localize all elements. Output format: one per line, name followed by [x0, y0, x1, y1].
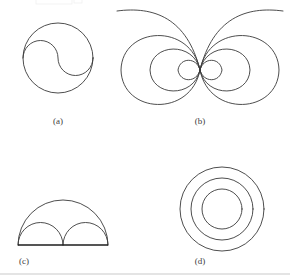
panel-a-caption: (a) [53, 116, 63, 126]
panel-b-right-loop-1 [200, 60, 222, 80]
figure-plate: (a) (b) [0, 0, 290, 280]
panel-d-circle-inner [202, 189, 242, 229]
panel-c-large-semicircle [18, 200, 108, 245]
panel-b-left-loop-2 [150, 49, 200, 91]
panel-c-small-semicircle-right [63, 223, 108, 245]
panel-c: (c) [18, 200, 108, 266]
panel-b-right-loop-2 [200, 49, 250, 91]
panel-b-left-loop-1 [178, 60, 200, 80]
panel-b-open-curve-right [200, 10, 283, 70]
panel-d-caption: (d) [195, 256, 206, 266]
panel-b-right-loops [200, 35, 279, 104]
panel-d: (d) [180, 167, 264, 266]
panel-b: (b) [117, 10, 283, 126]
panel-d-circle-middle [191, 178, 253, 240]
panel-a: (a) [23, 23, 93, 126]
panel-b-left-loops [121, 35, 200, 104]
panel-b-right-loop-3 [200, 35, 279, 104]
page-top-ghost-artifact [36, 0, 82, 4]
panel-a-s-curve [23, 41, 93, 76]
panel-b-left-loop-3 [121, 35, 200, 104]
panel-b-open-curves [117, 10, 283, 70]
panel-b-open-curve-left [117, 10, 200, 70]
panel-c-small-semicircle-left [18, 223, 63, 245]
panel-d-circle-outer [180, 167, 264, 251]
panel-c-caption: (c) [19, 256, 29, 266]
panel-b-caption: (b) [195, 116, 206, 126]
figure-plate-canvas: (a) (b) [0, 0, 290, 280]
